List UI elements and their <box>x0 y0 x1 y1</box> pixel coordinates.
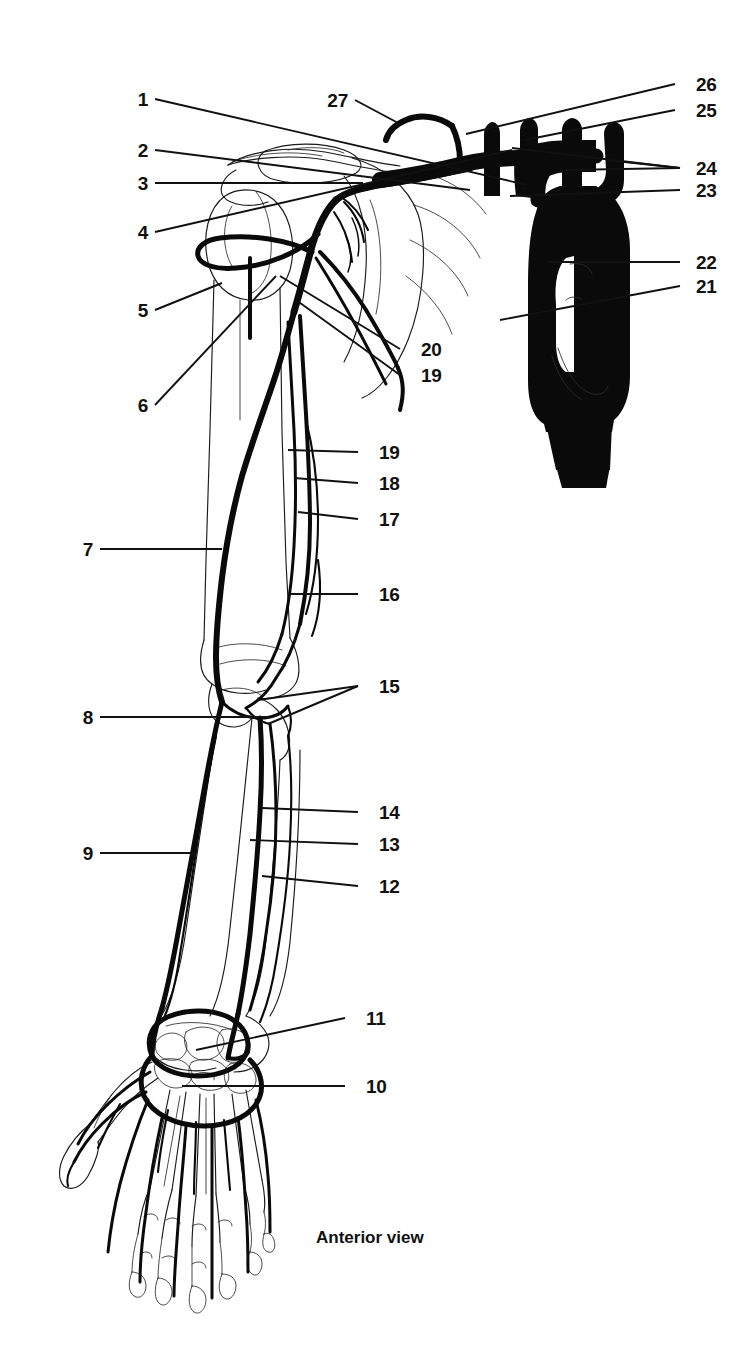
leader-5 <box>155 283 222 310</box>
anatomy-figure <box>0 0 755 1349</box>
leader-20 <box>280 276 400 349</box>
label-8: 8 <box>83 708 93 727</box>
label-21: 21 <box>696 277 717 296</box>
label-2: 2 <box>138 141 148 160</box>
label-7: 7 <box>83 540 93 559</box>
leader-19 <box>288 450 358 452</box>
label-19-shoulder: 19 <box>421 366 442 385</box>
label-4: 4 <box>138 223 148 242</box>
label-16: 16 <box>379 585 400 604</box>
leader-1 <box>155 99 527 185</box>
leader-17 <box>298 512 358 519</box>
leader-6 <box>155 276 276 405</box>
upper-limb-arteries <box>67 117 470 1298</box>
label-26: 26 <box>696 75 717 94</box>
skeleton-outline <box>60 144 487 1313</box>
leader-11 <box>196 1018 345 1050</box>
label-18: 18 <box>379 474 400 493</box>
label-14: 14 <box>379 803 400 822</box>
leader-12 <box>262 876 358 886</box>
label-27: 27 <box>327 91 348 110</box>
leader-4 <box>155 150 512 232</box>
label-6: 6 <box>138 396 148 415</box>
leader-13 <box>250 840 358 844</box>
leader-18 <box>294 478 358 483</box>
label-12: 12 <box>379 877 400 896</box>
label-9: 9 <box>83 844 93 863</box>
label-10: 10 <box>366 1077 387 1096</box>
label-13: 13 <box>379 835 400 854</box>
label-5: 5 <box>138 301 148 320</box>
label-24: 24 <box>696 159 717 178</box>
label-23: 23 <box>696 181 717 200</box>
label-11: 11 <box>366 1009 386 1028</box>
label-15: 15 <box>379 677 400 696</box>
label-22: 22 <box>696 253 717 272</box>
label-20: 20 <box>421 340 442 359</box>
label-19-arm: 19 <box>379 443 400 462</box>
label-3: 3 <box>138 174 148 193</box>
label-17: 17 <box>379 510 400 529</box>
view-caption: Anterior view <box>316 1228 424 1248</box>
leader-27 <box>355 100 400 124</box>
label-25: 25 <box>696 101 717 120</box>
label-1: 1 <box>138 90 148 109</box>
anatomy-illustration <box>0 0 755 1349</box>
